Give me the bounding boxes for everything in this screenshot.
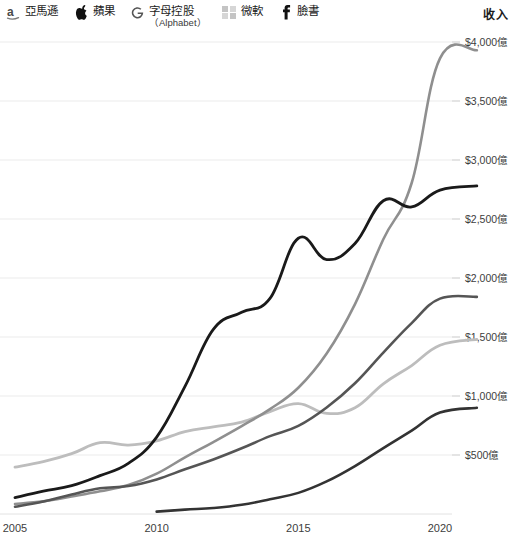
- y-tick-label: $2,000億: [465, 272, 508, 284]
- y-tick-label: $2,500億: [465, 213, 508, 225]
- chart-svg: $500億$1,000億$1,500億$2,000億$2,500億$3,000億…: [0, 0, 518, 547]
- x-tick-label: 2020: [428, 522, 452, 534]
- x-tick-label: 2005: [3, 522, 27, 534]
- y-tick-label: $500億: [465, 449, 499, 461]
- y-tick-label: $3,500億: [465, 95, 508, 107]
- line-chart-plot: $500億$1,000億$1,500億$2,000億$2,500億$3,000億…: [0, 0, 518, 547]
- y-tick-label: $1,000億: [465, 390, 508, 402]
- x-tick-label: 2015: [286, 522, 310, 534]
- series-line-1: [15, 186, 477, 498]
- series-line-4: [157, 408, 477, 512]
- series-line-0: [15, 45, 477, 504]
- y-tick-label: $3,000億: [465, 154, 508, 166]
- series-line-2: [15, 296, 477, 507]
- y-tick-label: $4,000億: [465, 36, 508, 48]
- series-line-3: [15, 339, 477, 467]
- x-tick-label: 2010: [144, 522, 168, 534]
